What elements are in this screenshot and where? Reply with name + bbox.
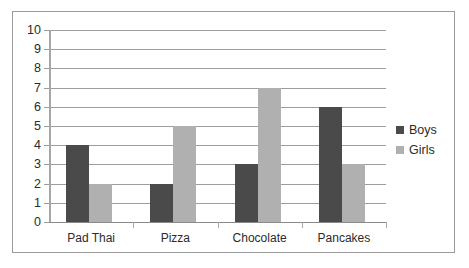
legend-swatch-boys bbox=[396, 126, 404, 134]
y-axis-line bbox=[49, 30, 51, 222]
y-tick-0 bbox=[44, 222, 49, 223]
bar-pancakes-boys bbox=[319, 107, 342, 222]
category-separator-2 bbox=[218, 222, 219, 228]
bar-chocolate-boys bbox=[235, 164, 258, 222]
legend-label-girls: Girls bbox=[409, 143, 435, 157]
category-separator-3 bbox=[302, 222, 303, 228]
chart-legend: BoysGirls bbox=[396, 120, 437, 160]
y-axis-label-2: 2 bbox=[34, 177, 41, 191]
x-axis-label-chocolate: Chocolate bbox=[233, 231, 287, 245]
plot-area: 012345678910 Pad ThaiPizzaChocolatePanca… bbox=[49, 30, 386, 222]
x-axis-label-pancakes: Pancakes bbox=[318, 231, 371, 245]
y-axis-label-5: 5 bbox=[34, 119, 41, 133]
legend-swatch-girls bbox=[396, 146, 404, 154]
y-axis-label-1: 1 bbox=[34, 196, 41, 210]
bar-pizza-girls bbox=[173, 126, 196, 222]
y-axis-label-8: 8 bbox=[34, 61, 41, 75]
chart-frame: 012345678910 Pad ThaiPizzaChocolatePanca… bbox=[12, 11, 455, 253]
bar-chocolate-girls bbox=[258, 88, 281, 222]
gridline-8 bbox=[49, 68, 386, 69]
y-axis-label-6: 6 bbox=[34, 100, 41, 114]
x-axis-label-pad-thai: Pad Thai bbox=[67, 231, 115, 245]
legend-item-girls[interactable]: Girls bbox=[396, 140, 437, 160]
bar-pancakes-girls bbox=[342, 164, 365, 222]
gridline-9 bbox=[49, 49, 386, 50]
y-axis-label-0: 0 bbox=[34, 215, 41, 229]
bar-pizza-boys bbox=[150, 184, 173, 222]
y-axis-label-4: 4 bbox=[34, 138, 41, 152]
y-axis-label-9: 9 bbox=[34, 42, 41, 56]
legend-item-boys[interactable]: Boys bbox=[396, 120, 437, 140]
x-axis-label-pizza: Pizza bbox=[161, 231, 190, 245]
legend-label-boys: Boys bbox=[409, 123, 437, 137]
y-axis-label-10: 10 bbox=[27, 23, 41, 37]
category-separator-1 bbox=[133, 222, 134, 228]
gridline-10 bbox=[49, 30, 386, 31]
y-axis-label-7: 7 bbox=[34, 81, 41, 95]
bar-pad-thai-boys bbox=[66, 145, 89, 222]
gridline-7 bbox=[49, 88, 386, 89]
bar-pad-thai-girls bbox=[89, 184, 112, 222]
category-separator-end bbox=[386, 222, 387, 228]
y-axis-label-3: 3 bbox=[34, 157, 41, 171]
